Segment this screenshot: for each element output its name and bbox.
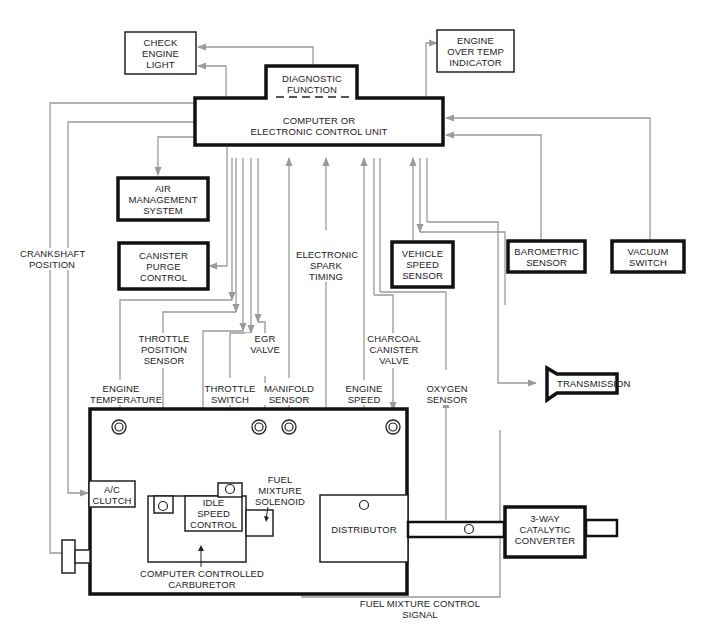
oxygen-sensor-label: OXYGEN SENSOR (425, 383, 469, 405)
diagram-canvas (0, 0, 714, 640)
fuel-mixture-solenoid-box (246, 510, 273, 536)
ecu-title: COMPUTER OR ELECTRONIC CONTROL UNIT (196, 115, 442, 137)
exhaust-pipe (408, 522, 504, 537)
throttle-switch-label: THROTTLE SWITCH (204, 383, 256, 405)
throttle-position-sensor-label: THROTTLE POSITION SENSOR (136, 333, 192, 366)
catalytic-converter-label: 3-WAY CATALYTIC CONVERTER (505, 513, 585, 546)
fuel-mixture-control-signal-label: FUEL MIXTURE CONTROL SIGNAL (340, 598, 500, 620)
crank-pulley (62, 540, 75, 573)
egr-valve-label: EGR VALVE (245, 333, 285, 355)
distributor-label: DISTRIBUTOR (320, 524, 408, 535)
manifold-sensor-label: MANIFOLD SENSOR (263, 383, 315, 405)
vacuum-switch-label: VACUUM SWITCH (612, 246, 684, 268)
engine-over-temp-label: ENGINE OVER TEMP INDICATOR (437, 35, 514, 68)
transmission-label: TRANSMISSION (557, 378, 617, 389)
carburetor-label: COMPUTER CONTROLLED CARBURETOR (132, 568, 272, 590)
engine-speed-label: ENGINE SPEED (345, 383, 383, 405)
charcoal-canister-valve-label: CHARCOAL CANISTER VALVE (366, 333, 422, 366)
air-management-label: AIR MANAGEMENT SYSTEM (118, 183, 208, 216)
electronic-spark-timing-label: ELECTRONIC SPARK TIMING (296, 249, 356, 282)
idle-speed-control-label: IDLE SPEED CONTROL (185, 497, 242, 530)
tailpipe (586, 520, 617, 536)
canister-purge-label: CANISTER PURGE CONTROL (119, 250, 208, 283)
diagnostic-function-label: DIAGNOSTIC FUNCTION (272, 73, 352, 95)
barometric-sensor-label: BAROMETRIC SENSOR (508, 246, 585, 268)
engine-temperature-label: ENGINE TEMPERATURE (90, 383, 152, 405)
vehicle-speed-sensor-label: VEHICLE SPEED SENSOR (392, 248, 453, 281)
check-engine-light-label: CHECK ENGINE LIGHT (125, 37, 196, 70)
ac-clutch-label: A/C CLUTCH (89, 484, 135, 506)
crankshaft-position-label: CRANKSHAFT POSITION (20, 248, 84, 270)
oxygen-sensor-port (465, 525, 474, 534)
fuel-mixture-solenoid-label: FUEL MIXTURE SOLENOID (254, 474, 306, 507)
